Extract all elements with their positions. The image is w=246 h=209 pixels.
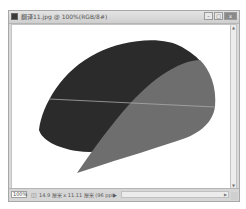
scroll-right-arrow-icon[interactable]: ▶ (223, 192, 228, 197)
scroll-up-arrow-icon[interactable]: ▲ (231, 25, 236, 31)
minimize-button[interactable]: – (204, 12, 213, 20)
status-bar: 100% ◫ 14.9 厘米 x 11.11 厘米 (96 ppi) ▶ ▶ (9, 188, 239, 201)
window-title: 翻译11.jpg @ 100%(RGB/8#) (21, 12, 107, 22)
maximize-button[interactable]: □ (214, 12, 223, 20)
horizontal-scrollbar[interactable]: ▶ (121, 191, 229, 198)
window-controls: – □ x (204, 12, 237, 20)
photoshop-app-icon (11, 13, 18, 20)
vertical-scrollbar[interactable]: ▲ ▼ (230, 24, 237, 190)
title-bar[interactable]: 翻译11.jpg @ 100%(RGB/8#) – □ x (9, 11, 239, 24)
zoom-level-field[interactable]: 100% (11, 191, 27, 198)
image-canvas[interactable] (11, 24, 231, 190)
resize-grip-icon[interactable] (231, 192, 238, 200)
info-menu-arrow-icon[interactable]: ▶ (113, 191, 117, 199)
close-button[interactable]: x (224, 12, 237, 20)
document-window: 翻译11.jpg @ 100%(RGB/8#) – □ x ▲ ▼ 100% ◫… (8, 10, 240, 202)
canvas-artwork (12, 25, 230, 189)
document-info-icon[interactable]: ◫ (31, 191, 37, 199)
document-size-info: 14.9 厘米 x 11.11 厘米 (96 ppi) (39, 191, 115, 199)
